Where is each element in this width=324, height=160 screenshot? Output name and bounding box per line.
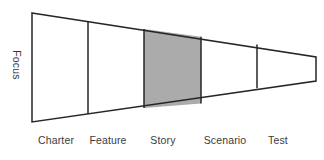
funnel-diagram: Focus Charter Feature Story Scenario Tes… [0,0,324,160]
stage-label-test: Test [238,134,318,146]
stage-label-row: Charter Feature Story Scenario Test [0,134,324,154]
funnel-segment-story-fill[interactable] [144,29,201,108]
